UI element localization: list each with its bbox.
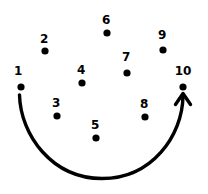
dot-1[interactable] — [17, 83, 24, 90]
dot-7[interactable] — [123, 69, 130, 76]
dot-2[interactable] — [41, 47, 48, 54]
dot-label-5: 5 — [91, 119, 99, 131]
diagram-canvas — [0, 0, 208, 194]
dot-label-2: 2 — [40, 33, 48, 45]
dot-label-6: 6 — [102, 14, 110, 26]
dot-sequence-diagram: 1 2 3 4 5 6 7 8 9 10 — [0, 0, 208, 194]
dot-label-1: 1 — [14, 65, 22, 77]
dot-10[interactable] — [179, 83, 186, 90]
dot-label-3: 3 — [52, 97, 60, 109]
dot-9[interactable] — [159, 46, 166, 53]
dot-label-8: 8 — [140, 98, 148, 110]
dot-group — [17, 29, 186, 141]
dot-4[interactable] — [78, 79, 85, 86]
dot-label-9: 9 — [158, 29, 166, 41]
sweep-arrow-curve — [20, 95, 184, 179]
dot-3[interactable] — [53, 112, 60, 119]
dot-8[interactable] — [141, 113, 148, 120]
dot-label-7: 7 — [122, 51, 130, 63]
dot-label-4: 4 — [77, 64, 85, 76]
sweep-arrow — [20, 94, 191, 179]
dot-6[interactable] — [103, 29, 110, 36]
dot-label-10: 10 — [175, 65, 191, 77]
dot-5[interactable] — [92, 134, 99, 141]
